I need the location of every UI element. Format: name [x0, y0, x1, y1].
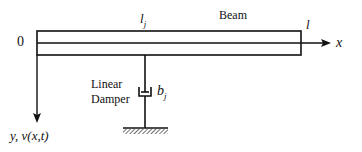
damper-coef-sub: j [164, 91, 167, 101]
damper-coef-var: b [157, 83, 164, 98]
damper-coefficient-label: bj [157, 84, 167, 101]
damper-label-line2: Damper [91, 93, 130, 105]
beam-length-label: l [306, 18, 310, 31]
position-lj-label: lj [140, 12, 146, 29]
damper-label-line1: Linear [91, 78, 122, 90]
position-lj-sub: j [144, 19, 147, 29]
ground-hatch-icon [123, 129, 168, 134]
x-axis-label: x [336, 36, 342, 50]
y-axis-label: y, v(x,t) [10, 129, 49, 142]
beam-label: Beam [219, 9, 247, 21]
origin-label: 0 [17, 35, 24, 49]
